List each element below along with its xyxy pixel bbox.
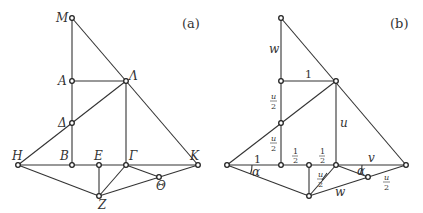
line-hypotenuse [281, 18, 406, 165]
label-v: v [368, 151, 375, 165]
frac-u-over-2-mid: u 2 [317, 170, 324, 189]
point-A [70, 79, 75, 84]
panel-label-b: (b) [390, 16, 408, 31]
point-E-b [307, 163, 312, 168]
point-K-b [404, 163, 409, 168]
point-top [279, 16, 284, 21]
label-M: M [55, 11, 69, 25]
point-Delta [70, 121, 75, 126]
label-E: E [93, 149, 103, 163]
point-M [70, 16, 75, 21]
label-Gamma: Γ [128, 149, 138, 163]
svg-text:2: 2 [293, 156, 298, 165]
panel-a: (a) M A Λ Δ B E Γ K H Z Θ [11, 11, 200, 212]
label-alpha-left: α [252, 165, 260, 179]
svg-text:1: 1 [320, 147, 325, 156]
line-H-Z [18, 165, 99, 196]
line-Z-K [99, 165, 198, 196]
point-Lambda [124, 79, 129, 84]
frac-u-over-2-lower: u 2 [270, 134, 277, 153]
point-Gamma-b [334, 163, 339, 168]
point-Theta-b [366, 175, 371, 180]
point-H-b [225, 163, 230, 168]
line-Gamma-Theta [126, 165, 159, 177]
diagram-canvas: (a) M A Λ Δ B E Γ K H Z Θ [0, 0, 423, 213]
label-B: B [59, 149, 69, 163]
point-Z-b [307, 194, 312, 199]
label-K: K [189, 149, 200, 163]
frac-u-over-2-upper: u 2 [270, 92, 277, 111]
svg-text:2: 2 [320, 156, 325, 165]
svg-text:2: 2 [271, 144, 276, 153]
label-Lambda: Λ [128, 69, 138, 83]
svg-text:u: u [271, 92, 276, 101]
frac-u-over-2-right: u 2 [383, 173, 390, 192]
point-A-b [279, 79, 284, 84]
svg-text:2: 2 [318, 180, 323, 189]
point-E [97, 163, 102, 168]
label-u-right: u [340, 116, 348, 130]
label-w-bottom: w [335, 185, 346, 199]
svg-text:2: 2 [384, 183, 389, 192]
label-one-top: 1 [305, 68, 312, 81]
point-K [196, 163, 201, 168]
point-Delta-b [279, 121, 284, 126]
label-alpha-right: α [357, 164, 365, 178]
label-Theta: Θ [156, 179, 166, 193]
svg-text:u: u [271, 134, 276, 143]
panel-b: (b) w 1 u 2 u 2 u 1 2 1 2 1 α [225, 16, 409, 199]
label-Z: Z [97, 198, 107, 212]
svg-text:2: 2 [271, 102, 276, 111]
point-H [16, 163, 21, 168]
line-M-K [72, 18, 198, 165]
point-Lambda-b [334, 79, 339, 84]
frac-half-right: 1 2 [319, 147, 325, 165]
svg-text:u: u [318, 170, 323, 179]
line-left-lower [227, 165, 309, 196]
frac-half-left: 1 2 [292, 147, 298, 165]
label-w-top: w [269, 42, 280, 56]
panel-label-a: (a) [182, 16, 200, 31]
label-H: H [11, 149, 23, 163]
svg-text:1: 1 [293, 147, 298, 156]
point-B-b [279, 163, 284, 168]
point-B [70, 163, 75, 168]
point-Gamma [124, 163, 129, 168]
svg-text:u: u [384, 173, 389, 182]
label-A: A [57, 74, 67, 88]
label-Delta: Δ [57, 116, 67, 130]
